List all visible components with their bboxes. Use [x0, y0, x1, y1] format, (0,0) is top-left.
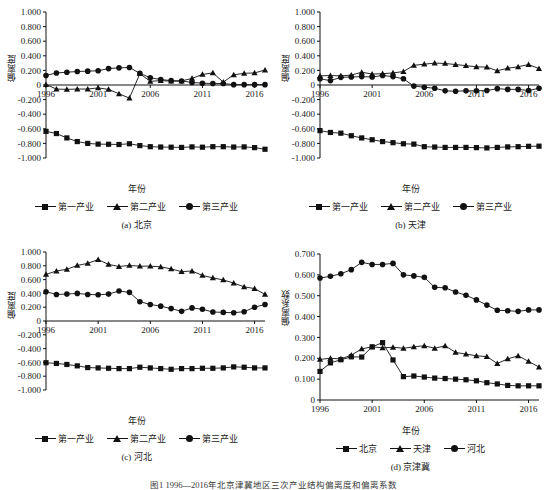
panel-hebei: 偏离度 1.0000.8000.6000.4000.2000-0.200-0.4…	[0, 242, 273, 482]
plot-area: 1.0000.8000.6000.4000.2000-0.200-0.400-0…	[0, 244, 273, 424]
svg-text:0.800: 0.800	[295, 22, 316, 32]
legend-item: 第三产业	[453, 200, 512, 213]
square-marker-icon	[35, 434, 56, 443]
square-marker-icon	[309, 202, 330, 211]
svg-text:0.600: 0.600	[21, 275, 42, 285]
svg-text:1996: 1996	[311, 89, 330, 99]
svg-text:-1.000: -1.000	[18, 385, 42, 395]
svg-text:0.200: 0.200	[295, 66, 316, 76]
triangle-marker-icon	[390, 444, 411, 453]
legend: 第一产业 第二产业 第三产业	[0, 200, 273, 213]
legend-item: 第一产业	[309, 200, 368, 213]
svg-text:2016: 2016	[246, 325, 265, 335]
legend-item: 第三产业	[179, 432, 238, 445]
svg-text:0.200: 0.200	[21, 66, 42, 76]
svg-text:2006: 2006	[141, 89, 160, 99]
svg-text:-0.800: -0.800	[18, 139, 42, 149]
square-marker-icon	[336, 444, 357, 453]
panel-subcaption: (b) 天津	[274, 218, 547, 231]
plot-area: 1.0000.8000.6000.4000.2000-0.200-0.400-0…	[274, 2, 547, 182]
svg-text:2001: 2001	[89, 89, 107, 99]
svg-text:2011: 2011	[194, 89, 212, 99]
legend-label: 第一产业	[332, 200, 368, 213]
svg-text:1996: 1996	[37, 325, 56, 335]
svg-text:1.000: 1.000	[21, 247, 42, 257]
legend: 第一产业 第二产业 第三产业	[274, 200, 547, 213]
svg-text:0.200: 0.200	[21, 302, 42, 312]
svg-text:0.400: 0.400	[21, 51, 42, 61]
circle-marker-icon	[444, 444, 465, 453]
legend-item: 第一产业	[35, 432, 94, 445]
legend-item: 第二产业	[107, 200, 166, 213]
svg-text:0.400: 0.400	[295, 312, 316, 322]
plot-area: 1.0000.8000.6000.4000.2000-0.200-0.400-0…	[0, 2, 273, 182]
legend-label: 第三产业	[476, 200, 512, 213]
legend: 北京 天津 河北	[274, 442, 547, 455]
circle-marker-icon	[179, 202, 200, 211]
svg-text:0.400: 0.400	[21, 289, 42, 299]
svg-text:-0.400: -0.400	[18, 344, 42, 354]
panel-tianjin: 偏离度 1.0000.8000.6000.4000.2000-0.200-0.4…	[274, 0, 547, 240]
figure-caption: 图1 1996—2016年北京津冀地区三次产业结构偏离度和偏离系数	[0, 478, 547, 490]
svg-text:2011: 2011	[194, 325, 212, 335]
svg-text:-0.800: -0.800	[292, 139, 316, 149]
legend-label: 第三产业	[202, 432, 238, 445]
legend: 第一产业 第二产业 第三产业	[0, 432, 273, 445]
svg-text:-0.800: -0.800	[18, 371, 42, 381]
svg-text:2016: 2016	[520, 404, 539, 414]
svg-text:-0.600: -0.600	[292, 124, 316, 134]
x-axis-label: 年份	[0, 414, 273, 427]
svg-text:0.700: 0.700	[295, 249, 316, 259]
x-axis-label: 年份	[0, 182, 273, 195]
svg-text:-0.400: -0.400	[18, 109, 42, 119]
svg-text:2001: 2001	[363, 404, 381, 414]
triangle-marker-icon	[107, 202, 128, 211]
legend-label: 第二产业	[130, 432, 166, 445]
square-marker-icon	[35, 202, 56, 211]
circle-marker-icon	[453, 202, 474, 211]
triangle-marker-icon	[381, 202, 402, 211]
svg-text:0.800: 0.800	[21, 261, 42, 271]
svg-text:0.200: 0.200	[295, 353, 316, 363]
plot-area: 0.7000.6000.5000.4000.3000.2000.10001996…	[274, 244, 547, 424]
legend-item: 第二产业	[107, 432, 166, 445]
svg-text:2006: 2006	[415, 89, 434, 99]
svg-text:-0.600: -0.600	[18, 124, 42, 134]
legend-label: 河北	[467, 442, 485, 455]
svg-text:-0.600: -0.600	[18, 358, 42, 368]
legend-label: 第一产业	[58, 200, 94, 213]
svg-text:0.600: 0.600	[295, 36, 316, 46]
legend-item: 北京	[336, 442, 377, 455]
legend-label: 天津	[413, 442, 431, 455]
svg-text:1996: 1996	[311, 404, 330, 414]
x-axis-label: 年份	[274, 424, 547, 437]
svg-text:0.300: 0.300	[295, 333, 316, 343]
svg-text:1996: 1996	[37, 89, 56, 99]
panel-subcaption: (c) 河北	[0, 450, 273, 463]
svg-text:2006: 2006	[141, 325, 160, 335]
legend-label: 第一产业	[58, 432, 94, 445]
svg-text:0.400: 0.400	[295, 51, 316, 61]
panel-subcaption: (a) 北京	[0, 218, 273, 231]
svg-text:0.600: 0.600	[21, 36, 42, 46]
svg-text:-0.400: -0.400	[292, 109, 316, 119]
svg-text:2001: 2001	[89, 325, 107, 335]
legend-label: 第三产业	[202, 200, 238, 213]
svg-text:-1.000: -1.000	[292, 153, 316, 163]
legend-item: 第一产业	[35, 200, 94, 213]
svg-text:2001: 2001	[363, 89, 381, 99]
panel-subcaption: (d) 京津冀	[274, 460, 547, 473]
legend-item: 天津	[390, 442, 431, 455]
svg-text:2016: 2016	[246, 89, 265, 99]
legend-label: 第二产业	[404, 200, 440, 213]
svg-text:2011: 2011	[468, 404, 486, 414]
legend-label: 第二产业	[130, 200, 166, 213]
svg-text:2006: 2006	[415, 404, 434, 414]
svg-text:0.800: 0.800	[21, 22, 42, 32]
svg-text:0.600: 0.600	[295, 270, 316, 280]
triangle-marker-icon	[107, 434, 128, 443]
panel-beijing: 偏离度 1.0000.8000.6000.4000.2000-0.200-0.4…	[0, 0, 273, 240]
legend-label: 北京	[359, 442, 377, 455]
circle-marker-icon	[179, 434, 200, 443]
